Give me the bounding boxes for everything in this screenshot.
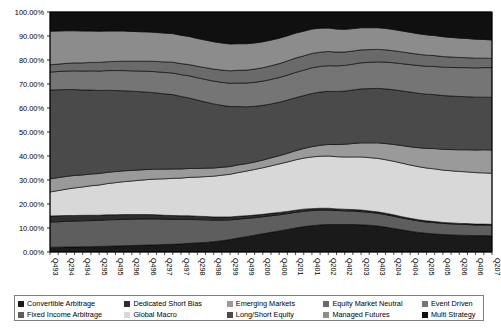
legend-label: Equity Market Neutral — [332, 299, 402, 308]
x-tick-label: Q400 — [280, 258, 289, 276]
x-tick-label: Q205 — [427, 258, 436, 276]
x-tick-label: Q297 — [165, 258, 174, 276]
legend-swatch-icon — [422, 301, 428, 307]
chart-canvas: 0.00%10.00%20.00%30.00%40.00%50.00%60.00… — [0, 0, 501, 295]
x-tick-label: Q405 — [443, 258, 452, 276]
legend-item: Convertible Arbitrage — [18, 299, 124, 308]
legend-label: Multi Strategy — [431, 310, 476, 319]
legend-label: Global Macro — [133, 310, 176, 319]
x-tick-label: Q298 — [198, 258, 207, 276]
legend-item: Emerging Markets — [227, 299, 324, 308]
y-axis-labels: 0.00%10.00%20.00%30.00%40.00%50.00%60.00… — [15, 8, 45, 257]
legend-label: Long/Short Equity — [236, 310, 294, 319]
x-tick-label: Q403 — [378, 258, 387, 276]
legend-item: Event Driven — [422, 299, 481, 308]
x-tick-label: Q406 — [476, 258, 485, 276]
y-tick-label: 70.00% — [19, 80, 44, 89]
legend-item: Global Macro — [124, 310, 226, 319]
x-tick-label: Q495 — [116, 258, 125, 276]
x-tick-label: Q295 — [100, 258, 109, 276]
x-tick-label: Q497 — [182, 258, 191, 276]
y-tick-label: 20.00% — [19, 200, 44, 209]
x-axis-labels: Q493Q294Q494Q295Q495Q296Q496Q297Q497Q298… — [51, 258, 501, 276]
y-tick-label: 0.00% — [23, 248, 44, 257]
legend-label: Emerging Markets — [236, 299, 295, 308]
legend-row-bottom: Fixed Income ArbitrageGlobal MacroLong/S… — [18, 309, 481, 320]
x-tick-label: Q401 — [313, 258, 322, 276]
legend-label: Convertible Arbitrage — [27, 299, 95, 308]
plot-area-wrapper: 0.00%10.00%20.00%30.00%40.00%50.00%60.00… — [0, 0, 501, 331]
y-tick-label: 10.00% — [19, 224, 44, 233]
legend-swatch-icon — [124, 312, 130, 318]
x-tick-label: Q201 — [296, 258, 305, 276]
legend-item: Equity Market Neutral — [323, 299, 422, 308]
x-tick-label: Q493 — [51, 258, 60, 276]
x-tick-label: Q296 — [132, 258, 141, 276]
x-tick-label: Q494 — [83, 258, 92, 276]
x-tick-label: Q496 — [149, 258, 158, 276]
legend-swatch-icon — [323, 301, 329, 307]
y-tick-label: 30.00% — [19, 176, 44, 185]
legend-label: Fixed Income Arbitrage — [27, 310, 102, 319]
x-tick-label: Q404 — [411, 258, 420, 276]
area-series-group — [50, 12, 492, 252]
y-tick-label: 60.00% — [19, 104, 44, 113]
legend-label: Dedicated Short Bias — [133, 299, 202, 308]
legend-item: Dedicated Short Bias — [124, 299, 226, 308]
x-tick-label: Q499 — [247, 258, 256, 276]
legend-swatch-icon — [422, 312, 428, 318]
legend-swatch-icon — [18, 301, 24, 307]
x-tick-label: Q498 — [214, 258, 223, 276]
stacked-area-chart: 0.00%10.00%20.00%30.00%40.00%50.00%60.00… — [0, 0, 501, 331]
legend-swatch-icon — [124, 301, 130, 307]
x-tick-label: Q200 — [263, 258, 272, 276]
x-tick-label: Q206 — [460, 258, 469, 276]
legend-swatch-icon — [323, 312, 329, 318]
chart-legend: Convertible ArbitrageDedicated Short Bia… — [14, 295, 484, 321]
legend-label: Managed Futures — [332, 310, 389, 319]
legend-item: Fixed Income Arbitrage — [18, 310, 124, 319]
x-tick-label: Q402 — [345, 258, 354, 276]
legend-row-top: Convertible ArbitrageDedicated Short Bia… — [18, 298, 481, 309]
x-tick-label: Q203 — [362, 258, 371, 276]
y-tick-label: 40.00% — [19, 152, 44, 161]
legend-swatch-icon — [227, 301, 233, 307]
legend-label: Event Driven — [431, 299, 473, 308]
legend-swatch-icon — [227, 312, 233, 318]
x-tick-label: Q204 — [394, 258, 403, 276]
legend-swatch-icon — [18, 312, 24, 318]
x-tick-label: Q202 — [329, 258, 338, 276]
y-tick-label: 100.00% — [15, 8, 45, 17]
y-tick-label: 80.00% — [19, 56, 44, 65]
y-tick-label: 50.00% — [19, 128, 44, 137]
x-tick-label: Q294 — [67, 258, 76, 276]
x-tick-label: Q299 — [231, 258, 240, 276]
legend-item: Managed Futures — [323, 310, 422, 319]
legend-item: Long/Short Equity — [227, 310, 324, 319]
x-tick-label: Q207 — [493, 258, 501, 276]
legend-item: Multi Strategy — [422, 310, 481, 319]
y-tick-label: 90.00% — [19, 32, 44, 41]
